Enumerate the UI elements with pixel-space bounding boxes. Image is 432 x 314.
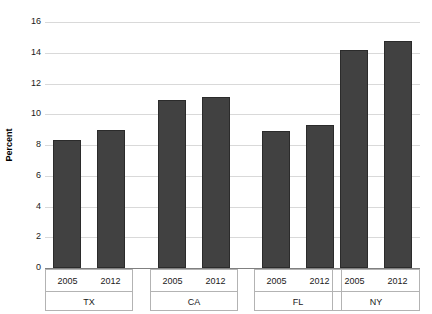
bar-ca-2005 <box>158 100 186 268</box>
group-cell-fl: 20052012FL <box>254 269 342 311</box>
plot-area: 0246810121416 <box>45 22 420 268</box>
bar-ca-2012 <box>202 97 230 268</box>
group-cell-ca: 20052012CA <box>150 269 238 311</box>
bar-fl-2005 <box>262 131 290 268</box>
year-label-row: 20052012 <box>46 270 132 291</box>
year-label-ny-2012: 2012 <box>376 270 419 291</box>
year-label-tx-2005: 2005 <box>46 270 89 291</box>
y-tick-label-6: 6 <box>3 170 41 180</box>
group-cell-tx: 20052012TX <box>45 269 133 311</box>
y-tick-label-2: 2 <box>3 231 41 241</box>
year-label-row: 20052012 <box>151 270 237 291</box>
bars-layer <box>45 22 420 268</box>
year-label-ca-2012: 2012 <box>194 270 237 291</box>
bar-ny-2012 <box>384 41 412 268</box>
year-label-row: 20052012 <box>333 270 419 291</box>
bar-tx-2012 <box>97 130 125 268</box>
group-label-ca: CA <box>151 291 237 312</box>
y-tick-label-0: 0 <box>3 262 41 272</box>
group-label-fl: FL <box>255 291 341 312</box>
bar-tx-2005 <box>53 140 81 268</box>
category-label-table: 20052012TX20052012CA20052012FL20052012NY <box>45 269 420 311</box>
year-label-ca-2005: 2005 <box>151 270 194 291</box>
year-label-fl-2005: 2005 <box>255 270 298 291</box>
y-tick-label-12: 12 <box>3 78 41 88</box>
y-tick-label-16: 16 <box>3 16 41 26</box>
bar-ny-2005 <box>340 50 368 268</box>
year-label-ny-2005: 2005 <box>333 270 376 291</box>
bar-chart: Percent 0246810121416 20052012TX20052012… <box>0 0 432 314</box>
group-label-ny: NY <box>333 291 419 312</box>
year-label-row: 20052012 <box>255 270 341 291</box>
y-tick-label-14: 14 <box>3 47 41 57</box>
bar-fl-2012 <box>306 125 334 268</box>
y-tick-label-8: 8 <box>3 139 41 149</box>
group-cell-ny: 20052012NY <box>332 269 420 311</box>
y-tick-label-4: 4 <box>3 201 41 211</box>
group-label-tx: TX <box>46 291 132 312</box>
y-tick-label-10: 10 <box>3 108 41 118</box>
year-label-tx-2012: 2012 <box>89 270 132 291</box>
